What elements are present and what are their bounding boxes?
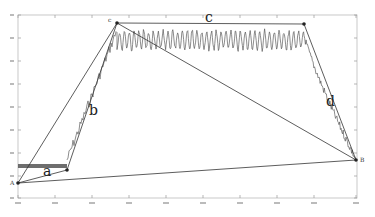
- point-label-c-peak: c: [108, 17, 111, 23]
- signal-waveform: [18, 29, 356, 168]
- segment-label-b: b: [89, 103, 98, 117]
- chart-canvas: [0, 0, 375, 217]
- segment-lines: [18, 23, 356, 183]
- point-label-a-start: A: [10, 180, 14, 186]
- point-label-b-end: B: [360, 157, 364, 163]
- segment-label-c: c: [205, 10, 213, 24]
- segment-label-a: a: [43, 164, 51, 178]
- segment-label-d: d: [326, 94, 335, 108]
